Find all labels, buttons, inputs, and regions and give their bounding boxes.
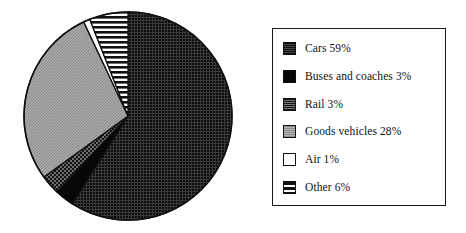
legend-item-list: Cars 59% Buses and coaches 3% Rail 3% Go…: [283, 35, 439, 201]
legend-swatch-goods-vehicles: [283, 125, 296, 138]
legend-item-air[interactable]: Air 1%: [283, 149, 439, 169]
pie-chart-figure: Cars 59% Buses and coaches 3% Rail 3% Go…: [0, 0, 466, 233]
legend-label-other: Other 6%: [305, 181, 350, 194]
legend-swatch-buses-and-coaches: [283, 70, 296, 83]
pie-slice-group: [24, 12, 232, 220]
legend-item-rail[interactable]: Rail 3%: [283, 94, 439, 114]
legend-label-goods-vehicles: Goods vehicles 28%: [305, 125, 401, 138]
legend-swatch-air: [283, 153, 296, 166]
legend-swatch-other: [283, 181, 296, 194]
legend-label-rail: Rail 3%: [305, 98, 343, 111]
legend-swatch-cars: [283, 42, 296, 55]
legend-label-cars: Cars 59%: [305, 42, 351, 55]
legend: Cars 59% Buses and coaches 3% Rail 3% Go…: [272, 28, 446, 206]
legend-swatch-rail: [283, 98, 296, 111]
legend-label-air: Air 1%: [305, 153, 339, 166]
legend-item-cars[interactable]: Cars 59%: [283, 39, 439, 59]
pie-chart-plot-area: [18, 6, 238, 226]
legend-item-other[interactable]: Other 6%: [283, 177, 439, 197]
legend-item-buses-and-coaches[interactable]: Buses and coaches 3%: [283, 66, 439, 86]
legend-label-buses-and-coaches: Buses and coaches 3%: [305, 70, 411, 83]
legend-item-goods-vehicles[interactable]: Goods vehicles 28%: [283, 122, 439, 142]
pie-chart-svg: [18, 6, 238, 226]
